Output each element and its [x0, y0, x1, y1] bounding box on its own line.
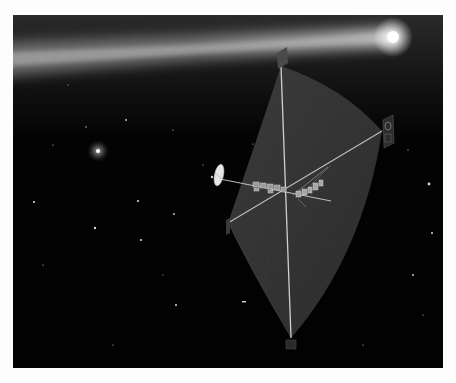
bright-star: [87, 140, 109, 162]
boom-tip-left: [226, 218, 230, 235]
space-scene: Artist illustration of a solar sail spac…: [13, 15, 443, 368]
boom-tip-right: [383, 115, 394, 148]
boom-tip-bottom: [286, 340, 296, 349]
space-illustration: [13, 15, 443, 368]
image-frame: Artist illustration of a solar sail spac…: [0, 0, 456, 383]
